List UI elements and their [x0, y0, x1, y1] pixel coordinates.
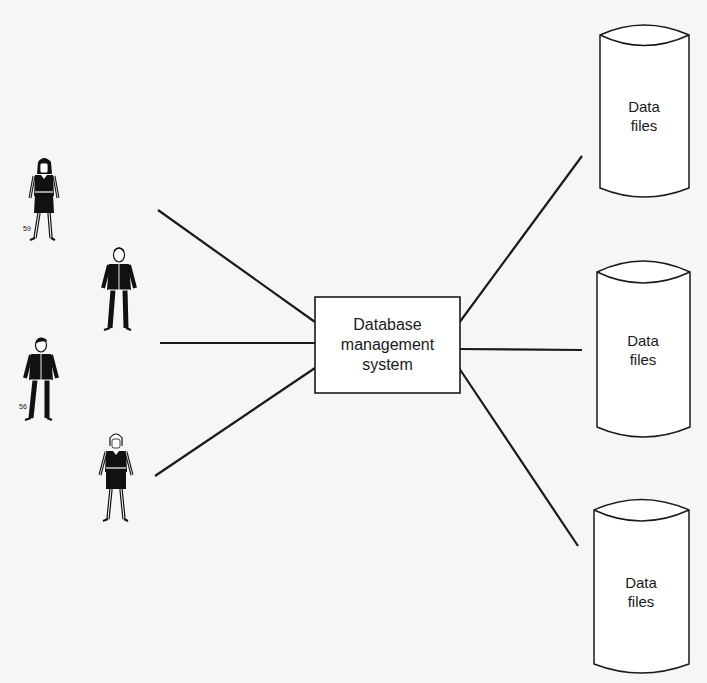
woman-user-icon: [30, 158, 58, 240]
user-connections: [155, 210, 315, 476]
dbms-box: Database management system: [315, 297, 460, 393]
woman-user-icon: [100, 434, 132, 521]
user-figure-1: 59: [23, 158, 58, 240]
dbms-label-line-2: management: [341, 336, 435, 353]
figure-caption: 59: [23, 225, 31, 232]
data-store-label-line-2: files: [631, 117, 658, 134]
data-store-label-line-2: files: [628, 593, 655, 610]
data-store-3: Data files: [594, 500, 689, 674]
data-store-label-line-2: files: [630, 351, 657, 368]
data-store-1: Data files: [600, 25, 689, 197]
dbms-label-line-3: system: [362, 356, 413, 373]
data-store-label-line-1: Data: [627, 332, 659, 349]
data-store-label-line-1: Data: [625, 574, 657, 591]
user-figure-4: [100, 434, 132, 521]
user-figure-3: 56: [19, 338, 57, 420]
man-user-icon: [25, 338, 57, 420]
connector-line: [459, 368, 578, 546]
man-user-icon: [103, 248, 135, 330]
data-store-label-line-1: Data: [628, 98, 660, 115]
user-figure-2: [103, 248, 135, 330]
connector-line: [459, 349, 582, 350]
cylinder-icon: [597, 261, 690, 437]
storage-connections: [459, 156, 582, 546]
dbms-label-line-1: Database: [353, 316, 422, 333]
dbms-diagram: Database management system Data files Da…: [0, 0, 707, 683]
connector-line: [158, 210, 315, 322]
connector-line: [155, 368, 315, 476]
figure-caption: 56: [19, 403, 27, 410]
connector-line: [459, 156, 582, 323]
data-store-2: Data files: [597, 261, 690, 437]
